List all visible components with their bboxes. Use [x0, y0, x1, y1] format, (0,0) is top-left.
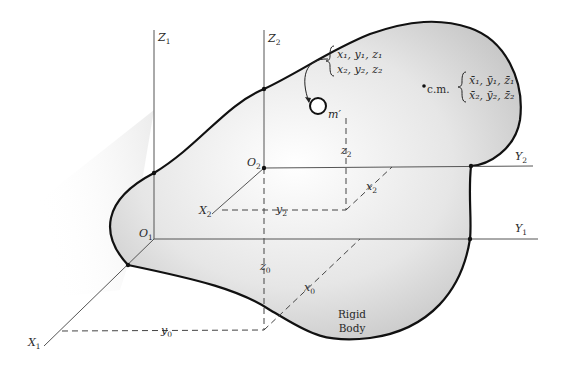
- y2-label: Y2: [515, 150, 527, 165]
- y0-label: y0: [160, 324, 172, 339]
- x1-label: X1: [27, 336, 41, 351]
- center-of-mass-label: c.m.: [427, 83, 450, 95]
- rigid-body-outline: [110, 22, 521, 340]
- intersection-dot: [126, 263, 130, 267]
- y1-label: Y1: [515, 222, 527, 237]
- z1-label: Z1: [157, 31, 170, 46]
- rigid-body-label-line1: Rigid: [338, 308, 366, 320]
- origin-o2-dot: [262, 166, 266, 170]
- intersection-dot: [152, 171, 156, 175]
- intersection-dot: [469, 164, 473, 168]
- center-of-mass-dot: [422, 84, 426, 88]
- mass-label: m′: [328, 108, 341, 121]
- rigid-body-diagram: Z1 Z2 Y1 Y2 X1 X2 O1 O2 z0 y0 x0 z2 y2 x…: [0, 0, 564, 365]
- com-coords-line2: x̄₂, ȳ₂, z̄₂: [469, 89, 514, 102]
- intersection-dot: [262, 87, 266, 91]
- intersection-dot: [468, 237, 472, 241]
- z2-label: Z2: [267, 32, 281, 47]
- mass-coords-line1: x₁, y₁, z₁: [337, 48, 382, 61]
- rigid-body-label-line2: Body: [339, 322, 366, 334]
- mass-coords-line2: x₂, y₂, z₂: [337, 63, 382, 76]
- com-coords-line1: x̄₁, ȳ₁, z̄₁: [469, 74, 514, 87]
- mass-particle-circle: [310, 98, 326, 114]
